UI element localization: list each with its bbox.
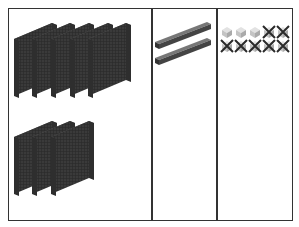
- blocks-drawing: [0, 0, 299, 227]
- ones-cubes: [221, 26, 289, 52]
- tens-rods: [155, 22, 211, 65]
- hundreds-flats-row1: [14, 23, 131, 98]
- hundreds-flats-row2: [14, 121, 94, 196]
